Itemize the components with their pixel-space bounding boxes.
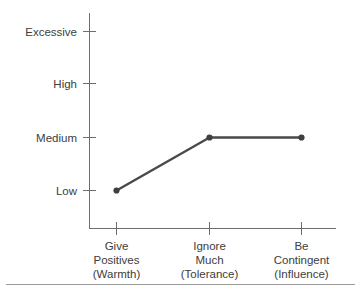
data-point-1 xyxy=(206,134,212,140)
line-chart: Excessive High Medium Low Give Positives… xyxy=(0,0,361,299)
x-tick-label-be-contingent-line2: Contingent xyxy=(274,254,330,266)
y-tick-label-medium: Medium xyxy=(36,132,77,144)
x-tick-label-ignore-much-line1: Ignore xyxy=(193,240,226,252)
data-point-0 xyxy=(113,187,119,193)
data-point-2 xyxy=(298,134,304,140)
y-tick-label-high: High xyxy=(53,78,77,90)
y-tick-label-low: Low xyxy=(56,185,78,197)
series-markers xyxy=(113,134,304,193)
x-tick-label-be-contingent-line1: Be xyxy=(294,240,308,252)
x-tick-label-ignore-much-line3: (Tolerance) xyxy=(181,268,239,280)
y-tick-label-excessive: Excessive xyxy=(25,26,77,38)
x-tick-label-give-positives-line1: Give xyxy=(105,240,129,252)
x-tick-label-give-positives-line2: Positives xyxy=(93,254,139,266)
x-tick-label-ignore-much-line2: Much xyxy=(195,254,223,266)
series-line xyxy=(117,138,302,191)
chart-canvas: Excessive High Medium Low Give Positives… xyxy=(0,0,361,299)
x-tick-label-be-contingent-line3: (Influence) xyxy=(274,268,329,280)
x-tick-label-give-positives-line3: (Warmth) xyxy=(93,268,141,280)
